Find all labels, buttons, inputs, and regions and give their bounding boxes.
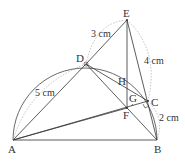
point-dot-C bbox=[147, 100, 149, 102]
measure-AD: 5 cm bbox=[35, 87, 55, 98]
label-E: E bbox=[123, 7, 130, 19]
measure-DE: 3 cm bbox=[91, 28, 111, 39]
segment-EB bbox=[127, 20, 157, 140]
measure-CB: 2 cm bbox=[159, 112, 179, 123]
label-B: B bbox=[154, 143, 161, 155]
segment-DC bbox=[86, 64, 148, 101]
measure-EC: 4 cm bbox=[144, 55, 164, 66]
label-A: A bbox=[8, 143, 16, 155]
label-C: C bbox=[151, 96, 158, 108]
label-G: G bbox=[129, 92, 137, 104]
point-dot-E bbox=[126, 19, 128, 21]
semicircle-arc bbox=[13, 68, 157, 140]
label-F: F bbox=[123, 109, 129, 121]
label-H: H bbox=[118, 75, 126, 87]
label-D: D bbox=[76, 52, 84, 64]
geometry-diagram: A B C D E F G H 5 cm 3 cm 4 cm 2 cm bbox=[0, 0, 185, 163]
